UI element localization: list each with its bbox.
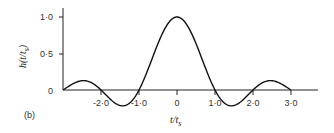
y-axis-label: h(t/ts) xyxy=(17,44,31,68)
y-tick-label: 0 xyxy=(48,86,53,96)
x-ticks xyxy=(101,90,291,95)
panel-label: (b) xyxy=(24,110,35,120)
x-axis-label: t/ts xyxy=(170,114,181,128)
x-tick-label: 2·0 xyxy=(246,98,259,108)
y-tick-label: 1·0 xyxy=(40,12,53,22)
y-tick-label: 0·5 xyxy=(40,49,53,59)
x-tick-label: -2·0 xyxy=(93,98,109,108)
x-tick-label: 3·0 xyxy=(284,98,297,108)
chart: 1·0 0·5 0 -2·0 -1·0 0 1·0 2·0 3·0 t/ts h… xyxy=(0,0,334,133)
y-ticks xyxy=(59,17,63,54)
x-tick-label: 0 xyxy=(174,98,179,108)
x-tick-label: 1·0 xyxy=(208,98,221,108)
